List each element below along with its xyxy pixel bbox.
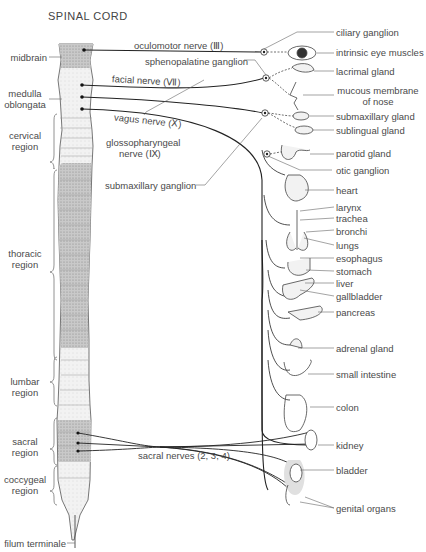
label-mucous-membrane-1: mucous membrane (330, 85, 426, 96)
label-lacrimal-gland: lacrimal gland (336, 66, 395, 77)
label-ciliary-ganglion: ciliary ganglion (336, 27, 399, 38)
label-thoracic-2: region (2, 259, 48, 270)
label-medulla-1: medulla (2, 88, 48, 99)
label-colon: colon (336, 402, 359, 413)
label-heart: heart (336, 185, 358, 196)
label-submaxillary-ganglion: submaxillary ganglion (105, 180, 196, 191)
label-submaxillary-gland: submaxillary gland (336, 111, 415, 122)
label-adrenal-gland: adrenal gland (336, 343, 394, 354)
label-larynx: larynx (336, 202, 361, 213)
vagus-nerve (82, 109, 308, 445)
label-glossopharyngeal-1: glossopharyngeal (106, 137, 180, 148)
label-small-intestine: small intestine (336, 369, 396, 380)
label-intrinsic-eye-muscles: intrinsic eye muscles (336, 47, 424, 58)
label-parotid-gland: parotid gland (336, 148, 391, 159)
label-esophagus: esophagus (336, 253, 382, 264)
label-pancreas: pancreas (336, 307, 375, 318)
label-sacral-1: sacral (2, 436, 48, 447)
label-lungs: lungs (336, 240, 359, 251)
label-genital-organs: genital organs (336, 503, 396, 514)
label-cervical-2: region (2, 141, 48, 152)
label-cervical-1: cervical (2, 130, 48, 141)
label-lumbar-1: lumbar (2, 376, 48, 387)
spinal-cord (57, 44, 93, 548)
label-bronchi: bronchi (336, 226, 367, 237)
label-sacral-nerves: sacral nerves (2, 3, 4) (138, 450, 230, 461)
label-liver: liver (336, 278, 353, 289)
label-otic-ganglion: otic ganglion (336, 165, 389, 176)
label-thoracic-1: thoracic (2, 248, 48, 259)
label-coccygeal-2: region (2, 485, 48, 496)
label-oculomotor-nerve: oculomotor nerve (Ⅲ) (134, 40, 223, 51)
label-stomach: stomach (336, 266, 372, 277)
label-sphenopalatine-ganglion: sphenopalatine ganglion (145, 56, 248, 67)
label-sublingual-gland: sublingual gland (336, 125, 405, 136)
label-kidney: kidney (336, 440, 363, 451)
label-sacral-2: region (2, 447, 48, 458)
organ-sketches (281, 46, 322, 505)
label-lumbar-2: region (2, 387, 48, 398)
label-midbrain: midbrain (0, 52, 47, 63)
region-braces (50, 114, 57, 505)
label-mucous-membrane-2: of nose (330, 96, 426, 107)
label-gallbladder: gallbladder (336, 291, 382, 302)
label-bladder: bladder (336, 465, 368, 476)
label-filum-terminale: filum terminale (0, 538, 66, 549)
label-glossopharyngeal-2: nerve (Ⅸ) (119, 148, 161, 159)
label-trachea: trachea (336, 213, 368, 224)
label-coccygeal-1: coccygeal (2, 474, 48, 485)
label-medulla-2: oblongata (2, 99, 48, 110)
